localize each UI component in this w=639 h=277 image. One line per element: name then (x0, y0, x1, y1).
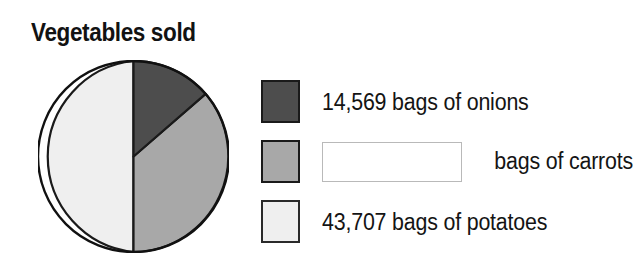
legend-swatch-onions (261, 80, 300, 123)
legend-item-potatoes: 43,707 bags of potatoes (261, 200, 633, 260)
pie-chart (38, 60, 229, 253)
legend-label-carrots: bags of carrots (474, 148, 633, 175)
legend-swatch-carrots (261, 140, 300, 183)
legend-label-onions: 14,569 bags of onions (322, 80, 529, 123)
legend-swatch-potatoes (261, 200, 300, 243)
page-title: Vegetables sold (31, 17, 196, 47)
legend-item-onions: 14,569 bags of onions (261, 80, 633, 140)
pie-chart-svg (38, 60, 229, 253)
pie-slice-potatoes (48, 61, 134, 252)
legend-label-potatoes: 43,707 bags of potatoes (322, 200, 547, 243)
carrots-answer-input[interactable] (322, 142, 462, 182)
legend-item-carrots: bags of carrots (261, 140, 633, 200)
carrots-answer-row: bags of carrots (322, 140, 633, 183)
legend: 14,569 bags of onions bags of carrots 43… (261, 80, 633, 260)
